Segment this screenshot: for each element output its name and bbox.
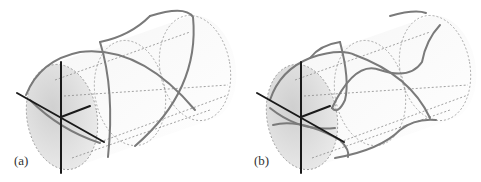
panel-a: (a) bbox=[0, 0, 240, 182]
panel-label-b: (b) bbox=[254, 153, 269, 169]
panel-b: (b) bbox=[240, 0, 480, 182]
panel-label-a: (a) bbox=[14, 153, 28, 169]
cylinder-diagram-b bbox=[240, 0, 480, 182]
cylinder-diagram-a bbox=[0, 0, 240, 182]
curve-6 bbox=[390, 12, 426, 16]
